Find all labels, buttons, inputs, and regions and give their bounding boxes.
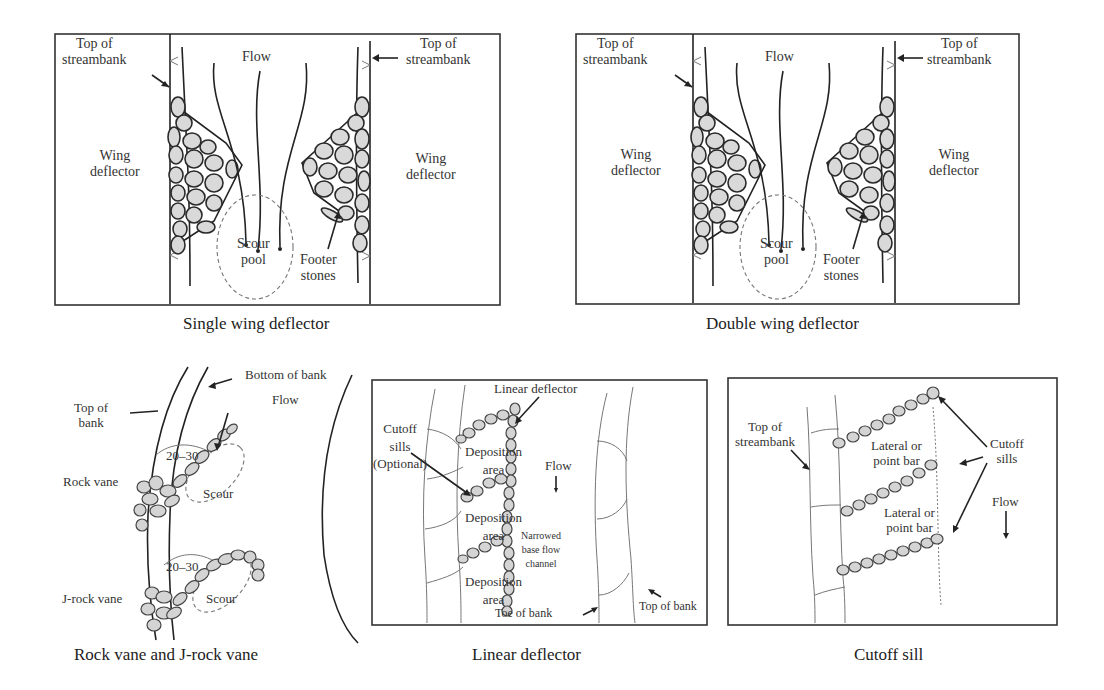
label-wing-deflector-left: Wing deflector bbox=[611, 147, 661, 179]
label-top-of-streambank-right: Top of streambank bbox=[406, 36, 471, 68]
panel-single-wing-deflector: Top of streambank Top of streambank Flow… bbox=[54, 33, 501, 306]
panel-linear-deflector: Linear deflector Cutoff sills (Optional)… bbox=[371, 379, 708, 626]
left-wing-deflector-rocks bbox=[691, 97, 765, 254]
label-scour-2: Scour bbox=[206, 592, 236, 607]
caption-cutoff-sill: Cutoff sill bbox=[854, 645, 923, 665]
label-lateral-or-point-bar-2: Lateral or point bar bbox=[884, 506, 935, 536]
label-top-of-bank: Top of bank bbox=[74, 401, 108, 431]
cutoff-sill-rocks bbox=[833, 387, 943, 575]
label-footer-stones: Footer stones bbox=[823, 252, 860, 284]
label-bottom-of-bank: Bottom of bank bbox=[245, 368, 327, 383]
right-wing-deflector-rocks bbox=[827, 97, 895, 252]
panel-rock-vane: Bottom of bank Flow Top of bank 20–30 Ro… bbox=[60, 365, 360, 645]
label-rock-vane: Rock vane bbox=[63, 475, 118, 490]
label-wing-deflector-right: Wing deflector bbox=[406, 151, 456, 183]
label-top-of-bank: Top of bank bbox=[639, 600, 697, 614]
rock-vane-rocks bbox=[134, 422, 239, 531]
label-scour-1: Scour bbox=[203, 487, 233, 502]
label-cutoff-sills: Cutoff sills bbox=[990, 437, 1024, 467]
label-flow: Flow bbox=[242, 49, 271, 65]
caption-linear-deflector: Linear deflector bbox=[472, 645, 581, 665]
j-rock-vane-rocks bbox=[141, 550, 264, 631]
label-wing-deflector-right: Wing deflector bbox=[929, 147, 979, 179]
label-toe-of-bank: Toe of bank bbox=[495, 607, 552, 621]
label-lateral-or-point-bar-1: Lateral or point bar bbox=[871, 439, 922, 469]
label-deposition-area-3: Deposition area bbox=[465, 573, 522, 608]
label-top-of-streambank-right: Top of streambank bbox=[927, 36, 992, 68]
linear-deflector-drawing bbox=[371, 379, 708, 626]
label-deposition-area-2: Deposition area bbox=[465, 509, 522, 544]
label-wing-deflector-left: Wing deflector bbox=[90, 148, 140, 180]
label-j-rock-vane: J-rock vane bbox=[62, 592, 122, 607]
caption-rock-vane-and-j-rock-vane: Rock vane and J-rock vane bbox=[74, 645, 258, 665]
label-flow: Flow bbox=[992, 495, 1019, 510]
caption-double-wing-deflector: Double wing deflector bbox=[706, 314, 859, 334]
panel-double-wing-deflector: Top of streambank Top of streambank Flow… bbox=[575, 33, 1020, 305]
label-scour-pool: Scour pool bbox=[237, 236, 270, 268]
label-linear-deflector: Linear deflector bbox=[494, 382, 577, 397]
label-flow: Flow bbox=[545, 459, 572, 474]
label-deposition-area-1: Deposition area bbox=[465, 443, 522, 478]
label-angle-2: 20–30 bbox=[166, 560, 199, 575]
label-angle-1: 20–30 bbox=[166, 449, 199, 464]
label-cutoff-sills-optional: Cutoff sills (Optional) bbox=[373, 420, 427, 473]
label-top-of-streambank: Top of streambank bbox=[735, 420, 795, 450]
label-footer-stones: Footer stones bbox=[300, 252, 337, 284]
panel-cutoff-sill: Top of streambank Lateral or point bar C… bbox=[727, 377, 1058, 626]
left-wing-deflector-rocks bbox=[168, 97, 242, 254]
label-narrowed-base-flow-channel: Narrowed base flow channel bbox=[521, 529, 561, 571]
label-scour-pool: Scour pool bbox=[760, 236, 793, 268]
caption-single-wing-deflector: Single wing deflector bbox=[183, 314, 329, 334]
right-wing-deflector-rocks bbox=[302, 97, 370, 252]
label-top-of-streambank-left: Top of streambank bbox=[583, 36, 648, 68]
label-flow: Flow bbox=[765, 49, 794, 65]
label-flow: Flow bbox=[272, 393, 299, 408]
label-top-of-streambank-left: Top of streambank bbox=[62, 36, 127, 68]
